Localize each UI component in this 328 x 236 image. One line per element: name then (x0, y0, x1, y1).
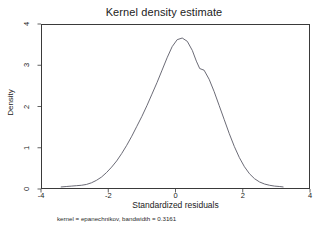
x-axis-tick-labels: -4-2024 (41, 191, 310, 203)
y-tick-label: 2 (20, 102, 34, 112)
y-axis-tick-labels: 01234 (18, 24, 36, 189)
y-tick-label: 4 (20, 19, 34, 29)
y-axis-label: Density (6, 73, 15, 133)
plot-area (41, 24, 310, 189)
x-tick-label: -4 (31, 191, 51, 201)
kernel-density-figure: Kernel density estimate Density Standard… (0, 0, 328, 236)
y-tick-label: 1 (20, 143, 34, 153)
x-tick-label: 4 (300, 191, 320, 201)
x-tick-label: 2 (233, 191, 253, 201)
x-tick-label: -2 (98, 191, 118, 201)
chart-footnote: kernel = epanechnikov, bandwidth = 0.316… (57, 215, 176, 223)
page-title: Kernel density estimate (0, 6, 328, 19)
tick-marks (38, 24, 311, 193)
density-curve-line (61, 38, 283, 187)
y-tick-label: 3 (20, 60, 34, 70)
x-tick-label: 0 (166, 191, 186, 201)
